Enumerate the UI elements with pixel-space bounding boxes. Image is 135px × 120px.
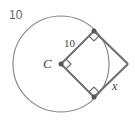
- tangent-segment-top: [94, 31, 128, 64]
- center-label: C: [43, 57, 52, 70]
- unknown-length-label: x: [112, 80, 117, 92]
- right-angle-marker-bottom: [89, 87, 99, 92]
- right-angle-marker-center: [66, 59, 71, 69]
- tangent-point-top: [92, 29, 97, 34]
- center-point: [59, 62, 64, 67]
- tangent-point-bottom: [92, 95, 97, 100]
- right-angle-marker-top: [89, 36, 99, 41]
- tangent-segment-x: [94, 64, 128, 97]
- radius-label: 10: [64, 38, 75, 49]
- problem-number: 10: [9, 9, 22, 21]
